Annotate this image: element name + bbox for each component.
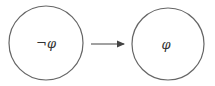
node-label: ¬φ bbox=[36, 36, 57, 51]
node-neg-phi: ¬φ bbox=[9, 6, 83, 80]
diagram-canvas: ¬φ φ bbox=[0, 0, 215, 86]
node-phi: φ bbox=[132, 8, 204, 80]
node-label: φ bbox=[161, 37, 171, 52]
